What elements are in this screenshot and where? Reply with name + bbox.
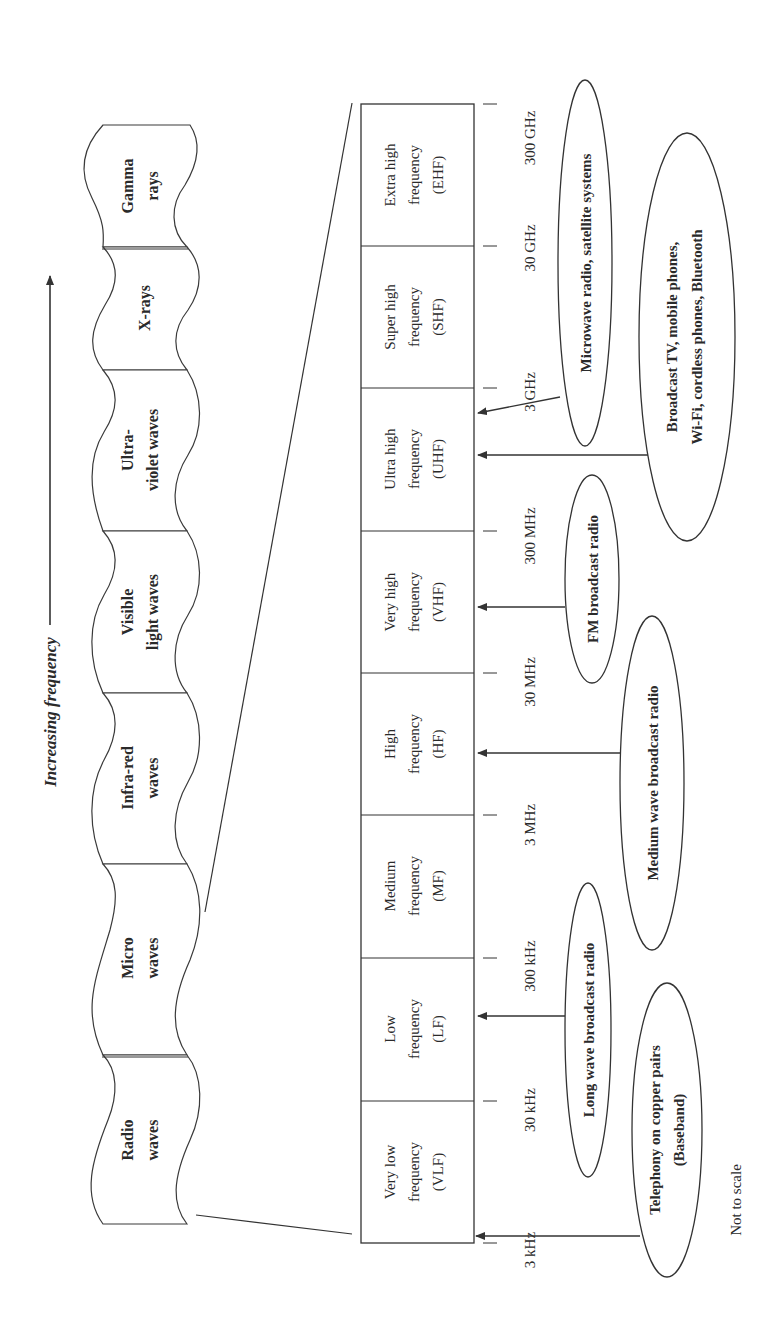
spectrum-block-ultraviolet: Ultra- violet waves: [92, 370, 200, 531]
band-label-line1: Very low: [382, 1145, 398, 1200]
spectrum-label-line2: rays: [144, 171, 162, 200]
spectrum-label-line2: waves: [144, 938, 161, 979]
spectrum-label-line1: Infra-red: [119, 746, 136, 810]
application-label: Medium wave broadcast radio: [645, 685, 661, 880]
application-label-line1: Broadcast TV, mobile phones,: [664, 242, 680, 433]
band-label-line3: (HF): [430, 729, 447, 758]
band-label-line3: (UHF): [430, 439, 447, 479]
band-label-line2: frequency: [406, 856, 422, 916]
boundary-label: 30 MHz: [522, 657, 538, 707]
band-cell-uhf: Ultra high frequency (UHF): [382, 428, 447, 490]
band-label-line1: Ultra high: [382, 428, 398, 490]
radio-band-table: Extra high frequency (EHF) Super high fr…: [361, 104, 474, 1243]
spectrum-label-line1: Ultra-: [119, 429, 136, 471]
spectrum-label-line1: X-rays: [136, 285, 154, 331]
band-label-line3: (LF): [430, 1015, 447, 1043]
band-label-line3: (VLF): [430, 1153, 447, 1191]
band-label-line2: frequency: [406, 287, 422, 347]
band-label-line2: frequency: [406, 429, 422, 489]
band-label-line3: (EHF): [430, 156, 447, 194]
spectrum-label-line1: Visible: [119, 589, 136, 636]
boundary-label: 300 MHz: [522, 507, 538, 564]
band-cell-vhf: Very high frequency (VHF): [382, 572, 447, 632]
band-label-line2: frequency: [406, 145, 422, 205]
boundary-label: 30 kHz: [522, 1088, 538, 1132]
spectrum-ribbon: Gamma rays X-rays Ultra- violet waves Vi…: [84, 125, 200, 1224]
band-label-line3: (MF): [430, 870, 447, 902]
band-label-line2: frequency: [406, 999, 422, 1059]
band-cell-lf: Low frequency (LF): [382, 999, 447, 1059]
band-label-line1: Medium: [382, 860, 398, 911]
boundary-label: 30 GHz: [522, 224, 538, 271]
application-label-line2: (Baseband): [671, 1094, 688, 1167]
application-long-wave: Long wave broadcast radio: [565, 883, 611, 1177]
spectrum-block-gamma: Gamma rays: [84, 125, 197, 247]
spectrum-label-line1: Gamma: [119, 158, 136, 213]
spectrum-label-line2: light waves: [144, 574, 162, 650]
boundary-label: 3 GHz: [522, 372, 538, 412]
band-cell-vlf: Very low frequency (VLF): [382, 1142, 447, 1202]
spectrum-block-micro: Micro waves: [92, 864, 200, 1055]
zoom-connector: [196, 103, 352, 1234]
band-label-line3: (SHF): [430, 298, 447, 336]
band-label-line1: Extra high: [382, 143, 398, 206]
increasing-frequency-axis: Increasing frequency: [41, 276, 60, 788]
band-label-line1: Very high: [382, 572, 398, 631]
spectrum-block-xrays: X-rays: [93, 247, 199, 370]
band-cell-hf: High frequency (HF): [382, 714, 447, 774]
spectrum-label-line1: Radio: [119, 1120, 136, 1161]
spectrum-label-line1: Micro: [119, 937, 136, 978]
application-medium-wave: Medium wave broadcast radio: [620, 616, 684, 950]
application-broadcast-tv: Broadcast TV, mobile phones, Wi-Fi, cord…: [639, 133, 735, 541]
application-label-line1: Telephony on copper pairs: [647, 1045, 663, 1215]
application-label: FM broadcast radio: [585, 515, 601, 643]
not-to-scale-note: Not to scale: [728, 1164, 744, 1236]
application-label-line2: Wi-Fi, cordless phones, Bluetooth: [689, 229, 705, 445]
band-label-line3: (VHF): [430, 582, 447, 622]
application-telephony: Telephony on copper pairs (Baseband): [632, 983, 702, 1277]
em-spectrum-diagram: Increasing frequency Gamma rays X-rays U…: [0, 0, 764, 1343]
boundary-label: 300 GHz: [522, 110, 538, 165]
band-label-line1: High: [382, 729, 398, 760]
band-cell-ehf: Extra high frequency (EHF): [382, 143, 447, 206]
spectrum-block-radio: Radio waves: [91, 1055, 200, 1224]
spectrum-label-line2: violet waves: [144, 409, 161, 491]
arrow-icon: [478, 397, 560, 413]
band-label-line2: frequency: [406, 572, 422, 632]
band-label-line2: frequency: [406, 714, 422, 774]
axis-label: Increasing frequency: [41, 637, 60, 788]
band-cell-shf: Super high frequency (SHF): [382, 284, 447, 350]
application-label: Microwave radio, satellite systems: [578, 153, 594, 372]
boundary-label: 300 kHz: [522, 940, 538, 992]
band-cell-mf: Medium frequency (MF): [382, 856, 447, 916]
application-microwave-radio: Microwave radio, satellite systems: [558, 80, 612, 446]
application-fm-radio: FM broadcast radio: [565, 475, 619, 683]
spectrum-label-line2: waves: [144, 758, 161, 799]
spectrum-block-visible: Visible light waves: [92, 531, 200, 693]
band-label-line1: Low: [382, 1015, 398, 1043]
frequency-scale: 3 kHz 30 kHz 300 kHz 3 MHz 30 MHz 300 MH…: [483, 104, 538, 1268]
band-label-line2: frequency: [406, 1142, 422, 1202]
application-label: Long wave broadcast radio: [581, 943, 597, 1117]
boundary-label: 3 MHz: [522, 804, 538, 846]
spectrum-label-line2: waves: [144, 1120, 161, 1161]
band-label-line1: Super high: [382, 284, 398, 350]
boundary-label: 3 kHz: [522, 1232, 538, 1269]
spectrum-block-infrared: Infra-red waves: [92, 693, 200, 864]
